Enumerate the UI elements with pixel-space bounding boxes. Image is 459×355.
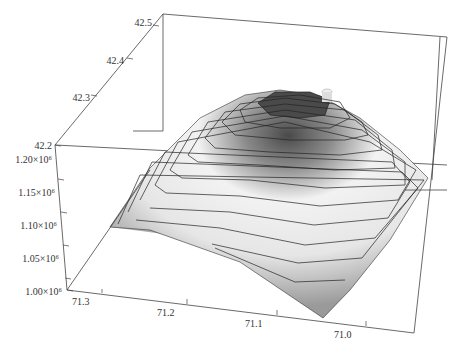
surface-plot[interactable]: 42.2 42.3 42.4 42.5 1.20×10⁶ 1.15×10⁶ 1.…	[0, 0, 459, 355]
y-tick-42-4: 42.4	[107, 55, 125, 66]
x-tick-71-1: 71.1	[245, 318, 263, 329]
x-tick-71-3: 71.3	[72, 296, 90, 307]
z-tick-1-10e6: 1.10×10⁶	[20, 220, 57, 231]
y-tick-42-3: 42.3	[73, 92, 91, 103]
z-tick-1-20e6: 1.20×10⁶	[15, 154, 52, 165]
y-tick-42-2: 42.2	[35, 140, 53, 151]
x-tick-71-2: 71.2	[157, 307, 175, 318]
surface	[110, 89, 428, 318]
z-tick-1-15e6: 1.15×10⁶	[18, 187, 55, 198]
x-tick-71-0: 71.0	[334, 329, 352, 340]
z-axis-labels: 1.20×10⁶ 1.15×10⁶ 1.10×10⁶ 1.05×10⁶ 1.00…	[15, 154, 62, 297]
z-tick-1-00e6: 1.00×10⁶	[25, 286, 62, 297]
z-tick-1-05e6: 1.05×10⁶	[22, 253, 59, 264]
y-tick-42-5: 42.5	[135, 17, 153, 28]
surface-body	[110, 90, 428, 318]
